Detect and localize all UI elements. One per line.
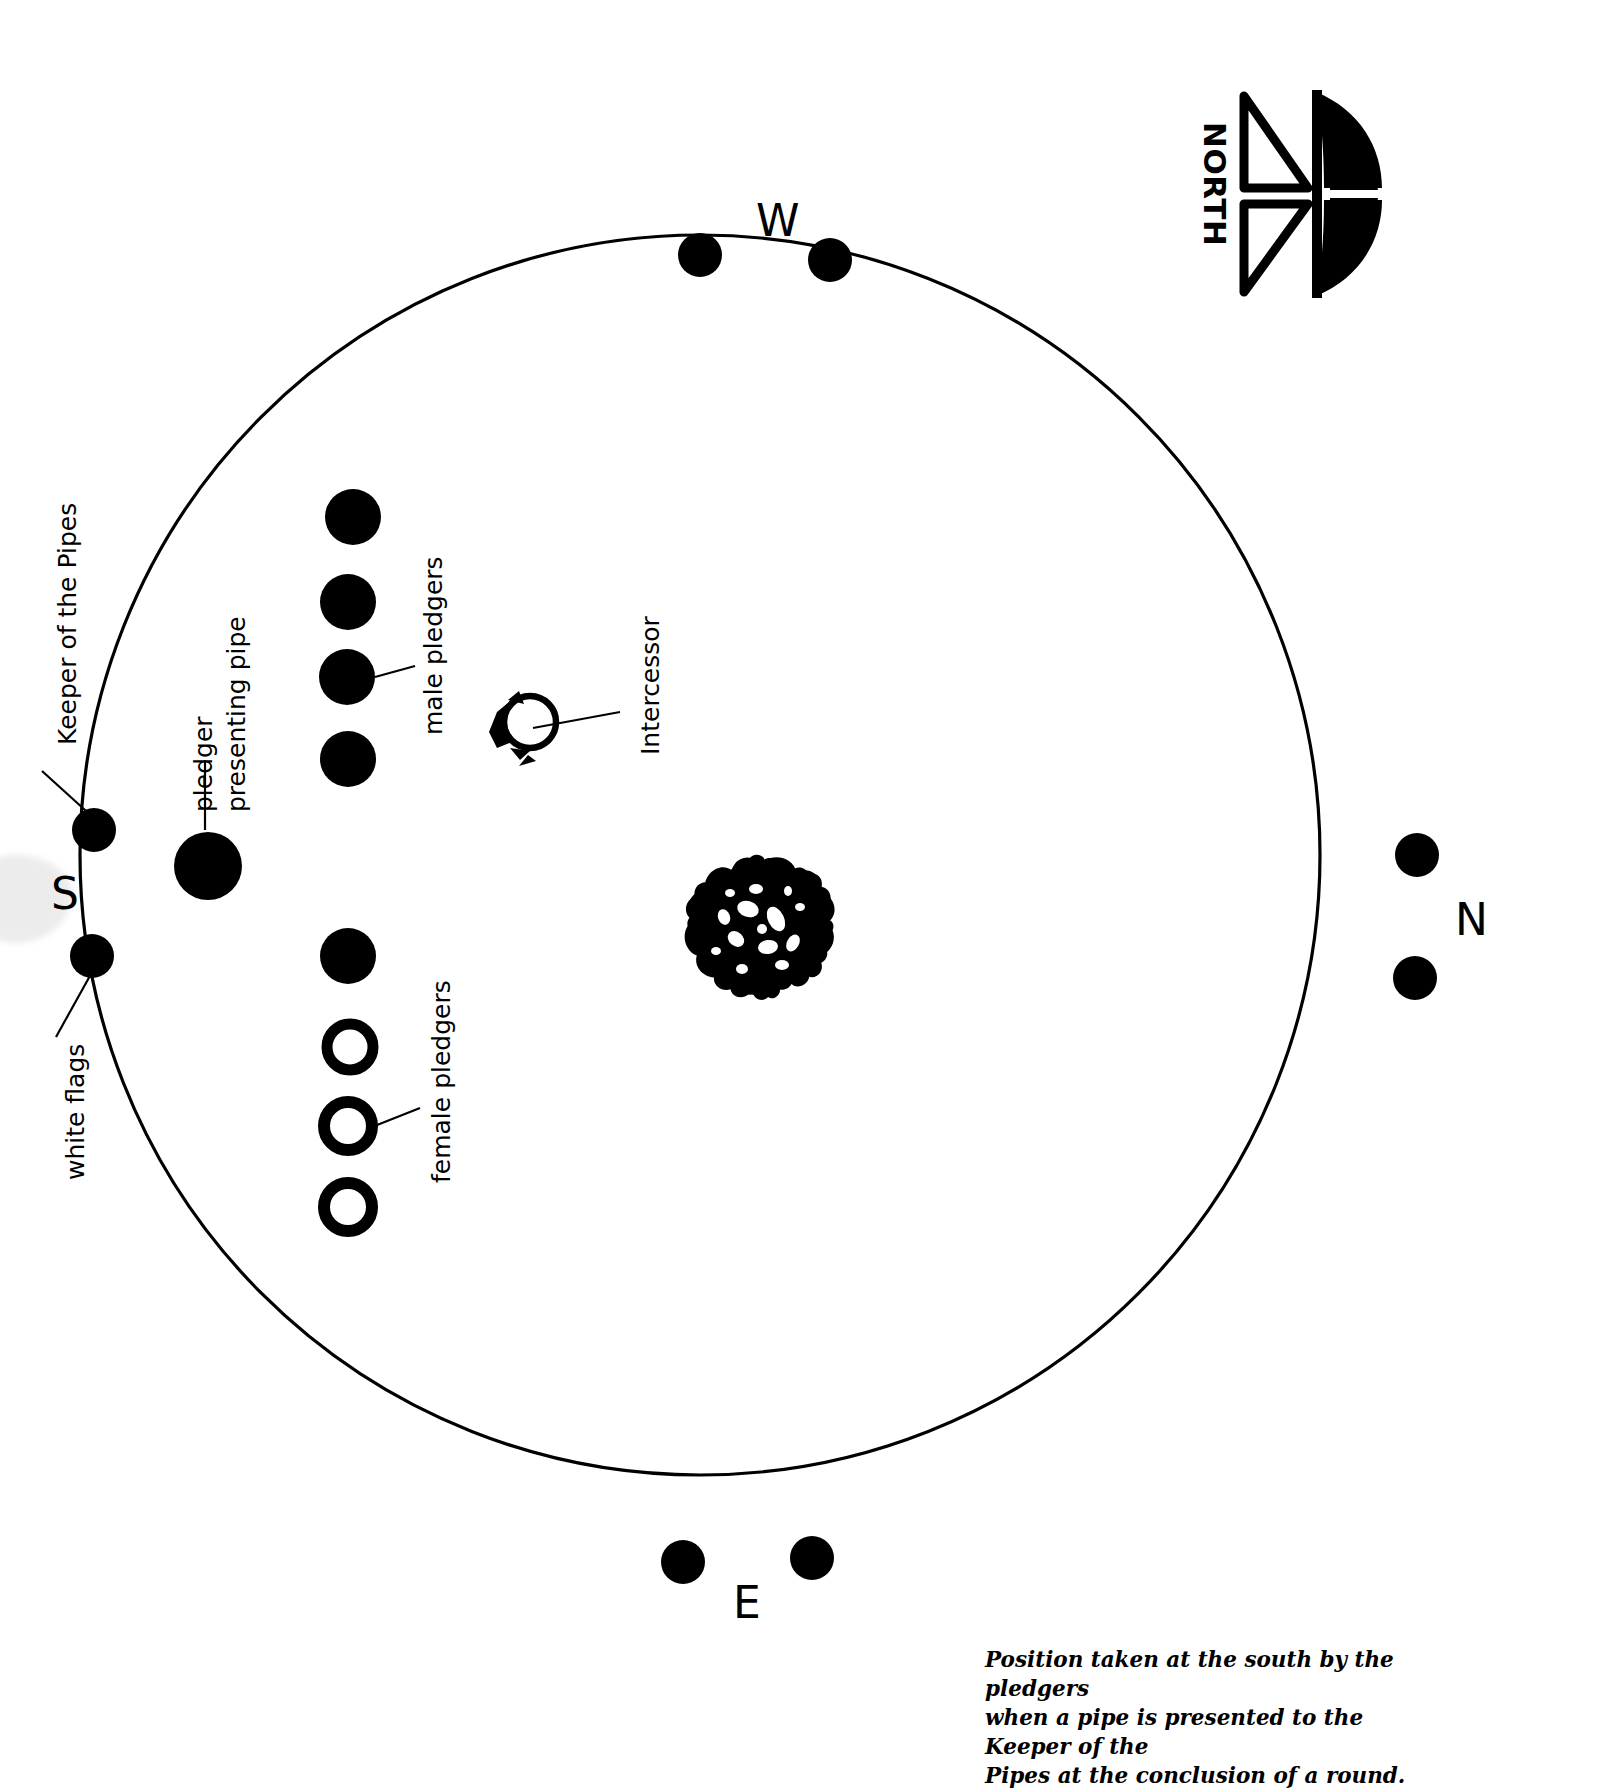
figure-caption: Position taken at the south by the pledg… <box>985 1645 1415 1790</box>
label-intercessor: Intercessor <box>637 616 665 755</box>
white-flag-marker <box>1395 833 1439 877</box>
white-flag-marker <box>678 233 722 277</box>
male-pledger-marker <box>320 928 376 984</box>
leader-line-male-pledgers <box>375 666 415 677</box>
figure-caption-line: Pipes at the conclusion of a round. <box>985 1761 1415 1790</box>
label-pledger-presenting-pipe-line1: pledger <box>190 716 218 812</box>
intercessor-marker <box>489 691 556 766</box>
leader-line-female-pledgers <box>372 1108 420 1127</box>
compass-rose-icon <box>1244 90 1382 298</box>
white-flag-marker <box>72 808 116 852</box>
label-pledger-presenting-pipe-line2: presenting pipe <box>223 616 251 812</box>
label-white-flags: white flags <box>62 1044 90 1180</box>
figure-caption-line: Position taken at the south by the pledg… <box>985 1645 1415 1703</box>
female-pledger-marker <box>324 1102 372 1150</box>
white-flag-marker <box>661 1540 705 1584</box>
pledger-presenting-pipe-marker <box>174 832 242 900</box>
female-pledger-marker <box>327 1024 373 1070</box>
cardinal-label-e: E <box>733 1578 761 1627</box>
male-pledger-marker <box>319 649 375 705</box>
center-tree-icon <box>675 844 846 1013</box>
compass-north-label: NORTH <box>1197 122 1232 246</box>
white-flag-marker <box>1393 956 1437 1000</box>
male-pledger-marker <box>320 574 376 630</box>
female-pledger-marker <box>324 1183 372 1231</box>
cardinal-label-n: N <box>1455 895 1488 944</box>
male-pledger-marker <box>320 731 376 787</box>
white-flag-marker <box>808 238 852 282</box>
leader-line-white-flags <box>56 965 96 1037</box>
ceremonial-circle <box>80 235 1320 1475</box>
leader-line-keeper-of-the-pipes <box>42 771 96 820</box>
male-pledger-marker <box>325 489 381 545</box>
label-male-pledgers: male pledgers <box>420 556 448 735</box>
cardinal-label-s: S <box>51 869 79 918</box>
label-female-pledgers: female pledgers <box>428 980 456 1183</box>
figure-caption-line: when a pipe is presented to the Keeper o… <box>985 1703 1415 1761</box>
white-flag-marker <box>790 1536 834 1580</box>
label-keeper-of-the-pipes: Keeper of the Pipes <box>54 503 82 745</box>
cardinal-label-w: W <box>756 196 800 245</box>
